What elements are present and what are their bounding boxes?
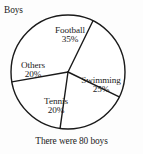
- slice-label-swimming: Swimming 25%: [72, 76, 130, 95]
- chart-caption: There were 80 boys: [0, 136, 143, 146]
- slice-label-football: Football 35%: [41, 26, 99, 45]
- chart-title-boys: Boys: [4, 6, 23, 16]
- slice-label-tennis: Tennis 20%: [33, 97, 79, 116]
- slice-label-others: Others 20%: [11, 61, 55, 80]
- pie-chart-figure: Boys Football 35% Swimming 25% Tennis 20…: [0, 0, 143, 154]
- slice-label-tennis-percent: 20%: [33, 106, 79, 115]
- slice-label-football-percent: 35%: [41, 35, 99, 44]
- slice-label-swimming-percent: 25%: [72, 85, 130, 94]
- slice-label-others-percent: 20%: [11, 70, 55, 79]
